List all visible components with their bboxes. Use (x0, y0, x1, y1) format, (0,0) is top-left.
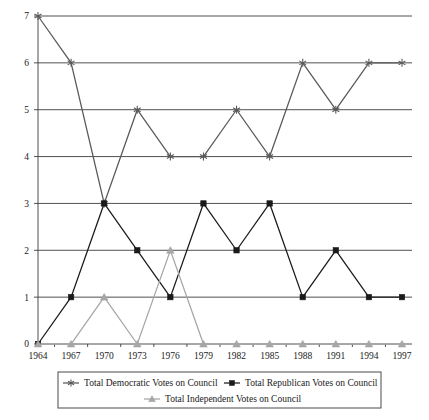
x-tick-label-1982: 1982 (227, 351, 246, 361)
x-tick-label-1976: 1976 (161, 351, 180, 361)
y-tick-label-0: 0 (24, 339, 29, 349)
y-tick-label-4: 4 (24, 152, 29, 162)
x-tick-label-1967: 1967 (62, 351, 81, 361)
y-tick-labels: 01234567 (24, 11, 29, 349)
marker-square (101, 201, 106, 206)
marker-square (366, 294, 371, 299)
x-tick-label-1973: 1973 (128, 351, 147, 361)
y-tick-label-2: 2 (24, 246, 29, 256)
y-tick-label-5: 5 (24, 105, 29, 115)
marker-square (234, 248, 239, 253)
marker-square (230, 381, 235, 386)
y-tick-label-1: 1 (24, 293, 29, 303)
legend-label: Total Independent Votes on Council (165, 394, 302, 404)
x-tick-label-1964: 1964 (29, 351, 48, 361)
chart-container: 01234567 1964196719701973197619791982198… (0, 0, 429, 420)
marker-square (399, 294, 404, 299)
x-tick-labels: 1964196719701973197619791982198519881991… (29, 351, 412, 361)
series-2 (35, 201, 404, 347)
y-axis (34, 16, 38, 344)
line-chart: 01234567 1964196719701973197619791982198… (0, 0, 429, 420)
marker-square (168, 294, 173, 299)
legend-label: Total Republican Votes on Council (245, 378, 378, 388)
x-tick-label-1991: 1991 (326, 351, 345, 361)
x-tick-label-1997: 1997 (393, 351, 412, 361)
x-tick-label-1985: 1985 (260, 351, 279, 361)
chart-legend: Total Democratic Votes on CouncilTotal R… (58, 372, 381, 408)
legend-item-3[interactable]: Total Independent Votes on Council (144, 394, 302, 404)
marker-square (135, 248, 140, 253)
legend-label: Total Democratic Votes on Council (84, 378, 218, 388)
legend-item-1[interactable]: Total Democratic Votes on Council (63, 378, 218, 388)
marker-square (201, 201, 206, 206)
y-tick-label-7: 7 (24, 11, 29, 21)
x-tick-label-1979: 1979 (194, 351, 213, 361)
x-tick-label-1970: 1970 (95, 351, 114, 361)
y-tick-label-6: 6 (24, 58, 29, 68)
marker-square (300, 294, 305, 299)
series-line (38, 203, 402, 344)
marker-square (333, 248, 338, 253)
x-tick-label-1994: 1994 (359, 351, 378, 361)
gridlines (38, 16, 412, 297)
legend-item-2[interactable]: Total Republican Votes on Council (224, 378, 378, 388)
marker-square (68, 294, 73, 299)
marker-square (267, 201, 272, 206)
x-tick-label-1988: 1988 (293, 351, 312, 361)
y-tick-label-3: 3 (24, 199, 29, 209)
